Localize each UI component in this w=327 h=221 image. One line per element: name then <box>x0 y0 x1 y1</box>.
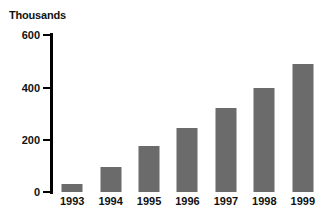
bar-xlabel-1996: 1996 <box>175 195 199 207</box>
bar-xlabel-1998: 1998 <box>252 195 276 207</box>
bar-group-1999: 1999 <box>284 35 322 192</box>
y-tick-mark <box>43 87 50 89</box>
bar-group-1995: 1995 <box>130 35 168 192</box>
bar-1997 <box>215 108 236 192</box>
bar-group-1996: 1996 <box>168 35 206 192</box>
bar-1999 <box>292 64 313 192</box>
y-tick-label: 200 <box>22 134 40 146</box>
y-tick-label: 400 <box>22 82 40 94</box>
bar-chart: Thousands 600 400 200 0 1993 1994 1995 1… <box>0 0 327 221</box>
y-tick-label: 0 <box>34 186 40 198</box>
bar-xlabel-1994: 1994 <box>98 195 122 207</box>
bar-1995 <box>139 146 160 192</box>
bar-1993 <box>62 184 83 192</box>
bar-group-1998: 1998 <box>245 35 283 192</box>
y-tick-mark <box>43 191 50 193</box>
y-tick-mark <box>43 139 50 141</box>
bars-layer: 1993 1994 1995 1996 1997 1998 1999 <box>53 35 322 192</box>
bar-xlabel-1999: 1999 <box>291 195 315 207</box>
bar-group-1993: 1993 <box>53 35 91 192</box>
bar-xlabel-1995: 1995 <box>137 195 161 207</box>
bar-1996 <box>177 128 198 192</box>
bar-group-1997: 1997 <box>207 35 245 192</box>
bar-group-1994: 1994 <box>91 35 129 192</box>
bar-1994 <box>100 167 121 192</box>
chart-title: Thousands <box>9 9 66 21</box>
bar-1998 <box>254 88 275 192</box>
y-tick-mark <box>43 34 50 36</box>
y-tick-label: 600 <box>22 29 40 41</box>
bar-xlabel-1993: 1993 <box>60 195 84 207</box>
bar-xlabel-1997: 1997 <box>214 195 238 207</box>
